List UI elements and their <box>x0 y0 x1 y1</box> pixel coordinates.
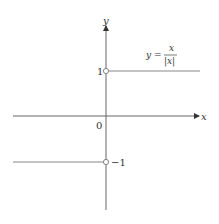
x-axis-label: x <box>201 111 207 122</box>
function-lhs: y = <box>145 50 162 60</box>
chart-canvas: y x 1 0 −1 y = x |x| <box>0 0 219 224</box>
y-axis-label: y <box>102 15 109 26</box>
tick-label-y-pos: 1 <box>97 66 103 77</box>
function-label: y = x |x| <box>145 43 177 67</box>
function-denominator: |x| <box>164 56 175 67</box>
open-point-positive <box>103 68 108 73</box>
open-point-negative <box>103 159 108 164</box>
function-numerator: x <box>169 43 174 53</box>
tick-label-origin: 0 <box>96 120 102 131</box>
tick-label-y-neg: −1 <box>111 157 126 168</box>
